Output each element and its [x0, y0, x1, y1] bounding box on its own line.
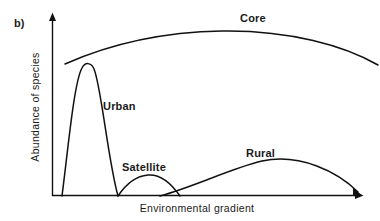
y-axis-title: Abundance of species [29, 52, 41, 161]
curve-rural [160, 159, 358, 196]
curve-label-satellite: Satellite [122, 161, 166, 173]
x-axis-title: Environmental gradient [140, 202, 255, 214]
panel-letter: b) [14, 17, 25, 29]
curve-label-core: Core [240, 12, 266, 24]
curve-label-rural: Rural [246, 147, 275, 159]
figure-panel-b: b) Environmental gradient Abundance of s… [0, 0, 380, 221]
curve-label-urban: Urban [103, 100, 136, 112]
abundance-gradient-chart: b) Environmental gradient Abundance of s… [0, 0, 380, 221]
curve-core [65, 31, 378, 65]
curve-urban [62, 64, 118, 196]
axes-group [49, 13, 364, 200]
y-axis-arrow-icon [49, 13, 56, 22]
